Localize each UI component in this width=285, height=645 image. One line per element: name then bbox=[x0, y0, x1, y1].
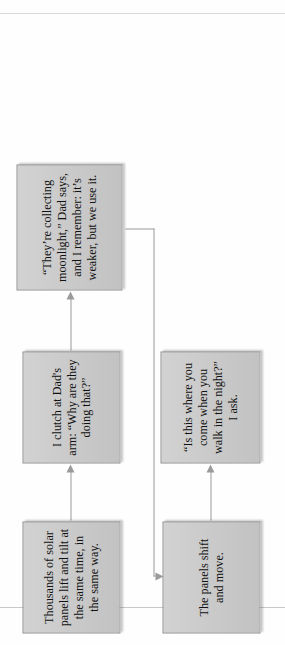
flow-node-moonlight-label: “They’re collecting moonlight,” Dad says… bbox=[39, 171, 99, 283]
arrowhead-icon-to-night-walk bbox=[206, 464, 214, 472]
flow-node-solar-panels[interactable]: Thousands of solar panels lift and tilt … bbox=[22, 521, 120, 633]
flow-node-panels-shift[interactable]: The panels shift and move. bbox=[162, 521, 260, 633]
flow-node-clutch-dad[interactable]: I clutch at Dad's arm: “Why are they doi… bbox=[22, 351, 120, 463]
flow-node-night-walk-label: “Is this where you come when you walk in… bbox=[180, 358, 240, 456]
scanned-page: Thousands of solar panels lift and tilt … bbox=[0, 0, 285, 645]
rotated-diagram-canvas: Thousands of solar panels lift and tilt … bbox=[0, 0, 285, 645]
connector-clutch-dad-to-moonlight bbox=[70, 298, 71, 350]
flow-node-clutch-dad-label: I clutch at Dad's arm: “Why are they doi… bbox=[49, 358, 94, 456]
connector-solar-panels-to-clutch-dad bbox=[70, 471, 71, 520]
connector-moonlight-to-panels-shift-segment-1 bbox=[125, 228, 154, 229]
flowchart: Thousands of solar panels lift and tilt … bbox=[0, 0, 285, 645]
arrowhead-icon-to-moonlight bbox=[66, 291, 74, 299]
arrowhead-icon-to-clutch-dad bbox=[66, 464, 74, 472]
flow-node-moonlight[interactable]: “They’re collecting moonlight,” Dad says… bbox=[16, 164, 122, 290]
flow-node-solar-panels-label: Thousands of solar panels lift and tilt … bbox=[41, 528, 101, 626]
connector-moonlight-to-panels-shift-segment-2 bbox=[153, 228, 154, 576]
flow-node-panels-shift-label: The panels shift and move. bbox=[196, 528, 226, 626]
flow-node-night-walk[interactable]: “Is this where you come when you walk in… bbox=[160, 351, 260, 463]
connector-panels-shift-to-night-walk bbox=[210, 471, 211, 520]
